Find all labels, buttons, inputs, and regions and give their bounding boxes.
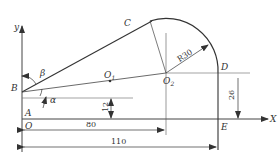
dim-r30-label: R30	[176, 48, 194, 64]
label-c: C	[124, 18, 131, 28]
dim-26-label: 26	[227, 90, 236, 100]
arc-cd	[150, 18, 218, 73]
label-alpha: α	[50, 95, 56, 105]
label-b: B	[10, 83, 18, 93]
alpha-pointer	[43, 97, 46, 108]
label-d: D	[220, 62, 228, 72]
alpha-arc	[40, 89, 42, 96]
label-beta: β	[39, 68, 45, 78]
line-bc	[22, 21, 152, 92]
label-a: A	[24, 108, 32, 118]
label-o2: O2	[163, 76, 174, 87]
dim-110-label: 110	[111, 137, 126, 146]
beta-arc	[22, 76, 36, 84]
dim-80-label: 80	[86, 120, 96, 129]
dim-12-label: 12	[101, 102, 110, 112]
cam-profile-drawing: y X C D E A O B β α O1 O2 R30 12 26 80 1…	[0, 0, 279, 168]
label-o: O	[25, 121, 33, 131]
line-o2-c	[150, 21, 166, 73]
label-o1: O1	[104, 70, 115, 81]
label-e: E	[220, 122, 228, 132]
y-axis-label: y	[13, 22, 20, 32]
x-axis-label: X	[269, 114, 277, 124]
